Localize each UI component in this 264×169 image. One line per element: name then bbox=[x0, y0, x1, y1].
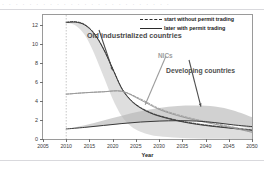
cropped-header-text: · · · · · · · · · · · · · · · · · · · · … bbox=[0, 0, 264, 9]
y-tick-mark bbox=[40, 101, 43, 102]
y-tick-mark bbox=[40, 25, 43, 26]
y-tick-mark bbox=[40, 120, 43, 121]
x-tick-mark bbox=[229, 139, 230, 142]
y-tick-label: 4 bbox=[24, 98, 38, 104]
annotation-old-industrialized: Old industrialized countries bbox=[87, 31, 182, 40]
y-tick-label: 0 bbox=[24, 136, 38, 142]
x-tick-label: 2040 bbox=[195, 143, 217, 149]
y-tick-mark bbox=[40, 82, 43, 83]
y-tick-label: 6 bbox=[24, 79, 38, 85]
x-tick-label: 2025 bbox=[125, 143, 147, 149]
x-axis-title: Year bbox=[42, 152, 253, 158]
x-tick-mark bbox=[89, 139, 90, 142]
x-tick-mark bbox=[159, 139, 160, 142]
x-tick-mark bbox=[136, 139, 137, 142]
figure-container: · · · · · · · · · · · · · · · · · · · · … bbox=[0, 0, 264, 169]
x-tick-mark bbox=[182, 139, 183, 142]
header-faint-text: · · · · · · · · · · · · · · · · · · · · … bbox=[0, 0, 264, 9]
footer-divider bbox=[0, 160, 264, 161]
y-tick-label: 10 bbox=[24, 41, 38, 47]
x-tick-label: 2050 bbox=[241, 143, 263, 149]
legend-item-without-trading: start without permit trading bbox=[138, 15, 250, 24]
x-tick-mark bbox=[252, 139, 253, 142]
x-tick-label: 2015 bbox=[78, 143, 100, 149]
y-tick-label: 8 bbox=[24, 60, 38, 66]
x-tick-label: 2030 bbox=[148, 143, 170, 149]
dashed-line-key-icon bbox=[138, 15, 164, 24]
annotation-developing-countries: Developing countries bbox=[166, 67, 235, 74]
y-tick-mark bbox=[40, 44, 43, 45]
x-tick-label: 2010 bbox=[55, 143, 77, 149]
x-tick-mark bbox=[43, 139, 44, 142]
annotation-nics: NICs bbox=[158, 52, 173, 59]
x-tick-mark bbox=[113, 139, 114, 142]
x-tick-label: 2020 bbox=[102, 143, 124, 149]
y-tick-mark bbox=[40, 63, 43, 64]
legend-label-without-trading: start without permit trading bbox=[164, 15, 234, 24]
x-tick-label: 2035 bbox=[171, 143, 193, 149]
x-tick-label: 2005 bbox=[32, 143, 54, 149]
y-tick-label: 12 bbox=[24, 22, 38, 28]
y-axis-title-wrapper: Tons of annual per capita CO2 emissions bbox=[2, 14, 14, 140]
y-tick-label: 2 bbox=[24, 117, 38, 123]
x-tick-label: 2045 bbox=[218, 143, 240, 149]
x-tick-mark bbox=[66, 139, 67, 142]
header-divider bbox=[0, 9, 264, 10]
x-tick-mark bbox=[206, 139, 207, 142]
